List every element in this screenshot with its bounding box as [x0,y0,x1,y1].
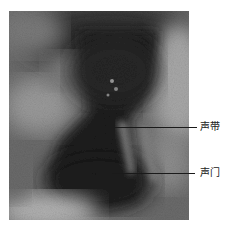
glottis-label: 声门 [200,167,220,179]
vocal-cord-label: 声带 [200,121,220,133]
larynx-photo [9,11,189,220]
glottis-leader-line [112,173,195,174]
vocal-cord-leader-line [115,127,197,128]
laryngoscope-figure: 声带 声门 [0,0,231,232]
